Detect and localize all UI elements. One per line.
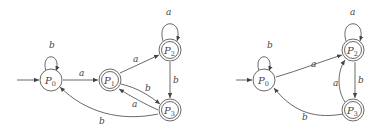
edge-label-p0-p1: a [79,68,84,78]
edge-p3-p1 [119,89,158,110]
edge-label-p3-p0: b [99,116,105,126]
edge-label-p2-loop: a [350,7,355,17]
edge-label-p2-p3: b [358,75,364,85]
state-p0: P0 [253,69,275,91]
edge-label-p0-p2: a [311,59,316,69]
edge-label-p0-loop: b [267,40,273,50]
edge-label-p3-p2: a [333,78,338,88]
edge-label-p3-p0: b [302,112,308,122]
edge-p2-loop [162,24,178,41]
automata-figure: b a a b a a b b P0 P1 [0,0,386,135]
edge-label-p1-p2: a [133,54,138,64]
edge-label-p3-p1: a [132,99,137,109]
edge-label-p2-p3: b [173,75,179,85]
edge-p0-p2 [276,55,342,77]
state-p3: P3 [159,99,181,121]
edge-label-p0-loop: b [49,40,55,50]
state-p2: P2 [159,39,181,61]
edge-label-p1-p3: b [145,83,151,93]
state-p3: P3 [342,99,364,121]
edge-label-p2-loop: a [166,7,171,17]
state-p1: P1 [99,69,121,91]
edge-p3-p2 [339,60,345,102]
left-automaton: b a a b a a b b P0 P1 [17,7,181,126]
edge-p2-loop [345,24,361,41]
edge-p3-p0 [274,88,343,116]
edge-p3-p0 [60,87,158,117]
edge-p1-p2 [120,55,159,73]
right-automaton: b a a b a b P0 P2 P3 [236,7,364,122]
state-p0: P0 [40,69,62,91]
state-p2: P2 [342,39,364,61]
